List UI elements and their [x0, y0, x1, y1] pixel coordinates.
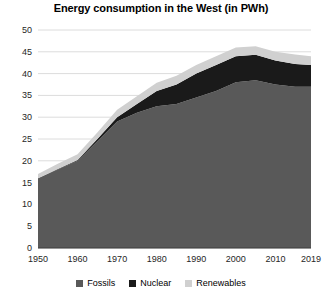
- legend-label-fossils: Fossils: [87, 278, 115, 288]
- y-axis-tick-label: 45: [22, 47, 32, 57]
- x-axis-tick-labels: 19501960197019801990200020102019: [28, 254, 321, 264]
- x-axis-tick-label: 2010: [265, 254, 285, 264]
- y-axis-tick-label: 0: [27, 243, 32, 253]
- y-axis-tick-label: 20: [22, 156, 32, 166]
- x-axis-tick-label: 1950: [28, 254, 48, 264]
- chart-container: Energy consumption in the West (in PWh) …: [0, 0, 322, 302]
- y-axis-tick-label: 5: [27, 221, 32, 231]
- y-axis-tick-label: 25: [22, 134, 32, 144]
- legend-label-renewables: Renewables: [196, 278, 246, 288]
- square-swatch-icon-nuclear: [129, 280, 136, 287]
- x-axis-tick-label: 1970: [107, 254, 127, 264]
- x-axis-tick-label: 1980: [147, 254, 167, 264]
- x-axis-tick-label: 2019: [301, 254, 321, 264]
- x-axis-tick-label: 1960: [68, 254, 88, 264]
- y-axis-tick-label: 50: [22, 25, 32, 35]
- chart-legend: Fossils Nuclear Renewables: [0, 278, 322, 288]
- area-series-fossils: [38, 80, 311, 248]
- legend-item-renewables[interactable]: Renewables: [185, 278, 246, 288]
- y-axis-tick-label: 30: [22, 112, 32, 122]
- y-axis-tick-labels: 05101520253035404550: [22, 25, 32, 253]
- square-swatch-icon-fossils: [76, 280, 83, 287]
- y-axis-tick-label: 15: [22, 178, 32, 188]
- y-axis-tick-label: 35: [22, 90, 32, 100]
- legend-item-nuclear[interactable]: Nuclear: [129, 278, 171, 288]
- x-axis-tick-label: 1990: [186, 254, 206, 264]
- plot-area: 05101520253035404550 1950196019701980199…: [0, 0, 322, 302]
- legend-label-nuclear: Nuclear: [140, 278, 171, 288]
- x-axis-tick-label: 2000: [226, 254, 246, 264]
- area-series-group: [38, 46, 311, 248]
- square-swatch-icon-renewables: [185, 280, 192, 287]
- legend-item-fossils[interactable]: Fossils: [76, 278, 115, 288]
- y-axis-tick-label: 10: [22, 199, 32, 209]
- y-axis-tick-label: 40: [22, 69, 32, 79]
- stacked-area-svg: 05101520253035404550 1950196019701980199…: [0, 0, 322, 302]
